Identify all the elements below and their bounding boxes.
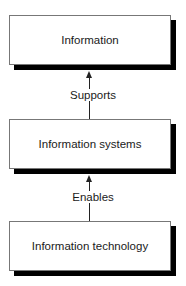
node-label: Information [61, 34, 119, 46]
node-information: Information [9, 15, 171, 65]
node-label: Information technology [32, 240, 148, 252]
node-information-technology: Information technology [9, 221, 171, 271]
edge-label-supports: Supports [0, 89, 186, 101]
arrowhead-up-icon [86, 71, 92, 78]
node-information-systems: Information systems [9, 119, 171, 169]
node-label: Information systems [39, 138, 142, 150]
arrowhead-up-icon [86, 175, 92, 182]
edge-label-enables: Enables [0, 191, 186, 203]
